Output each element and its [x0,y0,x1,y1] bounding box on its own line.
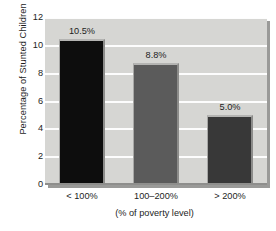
x-axis-tick-label: > 200% [214,192,245,201]
y-axis-tick-label: 2 [22,153,43,162]
bar [59,39,105,185]
y-axis-tick-label: 8 [22,69,43,78]
y-axis-tick-label: 4 [22,125,43,134]
y-axis-tick-label: 0 [22,180,43,189]
y-axis-tick-label: 10 [22,41,43,50]
y-axis-tick-labels: 024681012 [22,18,43,185]
bar-value-label: 8.8% [146,51,167,60]
y-axis-tick-label: 12 [22,13,43,22]
y-axis-tick-label: 6 [22,97,43,106]
x-axis-tick-label: < 100% [66,192,97,201]
gridline [45,18,267,19]
bar-chart: Percentage of Stunted Children 024681012… [0,0,276,231]
x-axis-line [45,183,267,185]
bar [207,115,253,185]
bar-value-label: 5.0% [220,103,241,112]
bar-value-label: 10.5% [69,27,95,36]
x-axis-title: (% of poverty level) [0,209,276,218]
x-axis-tick-label: 100–200% [134,192,178,201]
bar [133,63,179,185]
